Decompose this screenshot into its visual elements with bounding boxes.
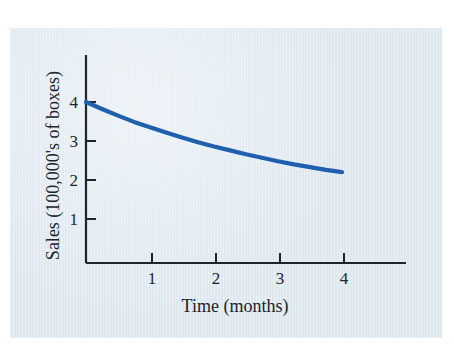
y-tick-label-2: 2 bbox=[62, 172, 78, 189]
x-tick-label-4: 4 bbox=[334, 270, 354, 287]
y-tick-label-4: 4 bbox=[62, 94, 78, 111]
y-axis-title: Sales (100,000's of boxes) bbox=[43, 51, 64, 281]
data-series-sales-curve bbox=[86, 102, 342, 172]
x-tick-label-3: 3 bbox=[270, 270, 290, 287]
x-tick-label-1: 1 bbox=[142, 270, 162, 287]
x-axis-title: Time (months) bbox=[140, 296, 330, 317]
x-tick-label-2: 2 bbox=[206, 270, 226, 287]
y-tick-label-1: 1 bbox=[62, 211, 78, 228]
y-tick-label-3: 3 bbox=[62, 133, 78, 150]
